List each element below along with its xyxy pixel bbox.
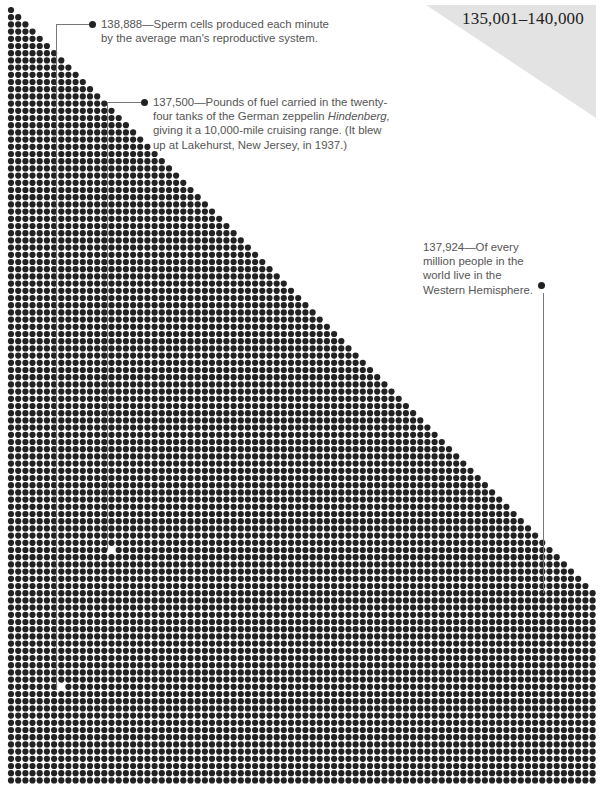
- callout-line: 138,888—Sperm cells produced each minute: [101, 17, 361, 31]
- callout-line: by the average man's reproductive system…: [101, 31, 361, 45]
- callout-bullet-1: [89, 21, 96, 28]
- callout-137500: 137,500—Pounds of fuel carried in the tw…: [153, 95, 453, 152]
- callout-line: 137,500—Pounds of fuel carried in the tw…: [153, 95, 453, 109]
- callout-bullet-2: [141, 99, 148, 106]
- callout-line: million people in the: [423, 254, 563, 268]
- callout-line: four tanks of the German zeppelin Hinden…: [153, 109, 453, 123]
- callout-bullet-3: [538, 282, 545, 289]
- leader-line-horizontal-2: [107, 102, 141, 103]
- callout-text: four tanks of the German zeppelin: [153, 110, 328, 122]
- callout-line: world live in the: [423, 268, 563, 282]
- leader-line-vertical-1: [56, 24, 57, 690]
- range-label: 135,001–140,000: [462, 9, 584, 29]
- leader-line-vertical-2: [107, 102, 108, 550]
- callout-line: up at Lakehurst, New Jersey, in 1937.): [153, 138, 453, 152]
- callout-line: 137,924—Of every: [423, 240, 563, 254]
- callout-138888: 138,888—Sperm cells produced each minute…: [101, 17, 361, 45]
- callout-italic-text: Hindenberg,: [328, 110, 390, 122]
- leader-line-vertical-3: [543, 293, 544, 593]
- leader-line-horizontal-1: [56, 24, 89, 25]
- callout-line: giving it a 10,000-mile cruising range. …: [153, 123, 453, 137]
